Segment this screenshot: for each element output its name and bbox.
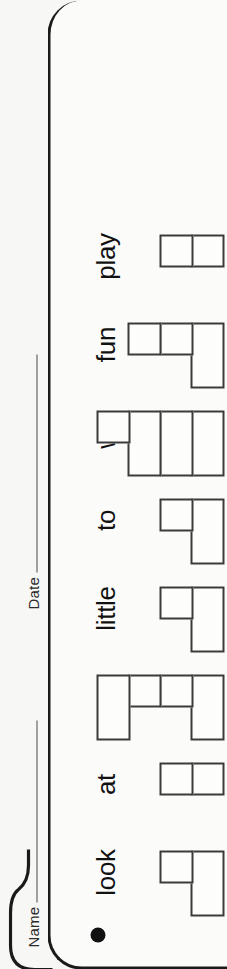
date-field[interactable]: Date	[25, 355, 40, 610]
bar-label-play: play	[92, 212, 118, 300]
bar-cell[interactable]	[96, 410, 130, 443]
bar-stack-me	[122, 652, 227, 740]
bar-cell[interactable]	[190, 850, 224, 916]
bar-cell[interactable]	[159, 498, 193, 531]
bar-chart-plot: lookatmelittletowefunplay	[50, 0, 227, 966]
date-field-rule[interactable]	[36, 355, 37, 573]
bar-label-to: to	[92, 476, 118, 564]
bar-stack-at	[122, 740, 227, 828]
bar-cell[interactable]	[190, 586, 224, 652]
bar-cell[interactable]	[190, 234, 224, 267]
bar-cell[interactable]	[190, 410, 224, 476]
bar-stack-little	[122, 564, 227, 652]
bar-cell[interactable]	[190, 498, 224, 564]
bar-label-fun: fun	[92, 300, 118, 388]
bar-cell[interactable]	[190, 674, 224, 740]
bar-label-at: at	[92, 740, 118, 828]
bar-cell[interactable]	[127, 674, 161, 707]
bar-cell[interactable]	[190, 322, 224, 388]
worksheet-header: Name Date	[0, 0, 46, 969]
bar-label-little: little	[92, 564, 118, 652]
card-notch-decoration	[8, 849, 52, 969]
bar-stack-to	[122, 476, 227, 564]
bar-cell[interactable]	[159, 762, 193, 795]
bar-stack-play	[122, 212, 227, 300]
bar-stack-fun	[122, 300, 227, 388]
bar-cell[interactable]	[159, 234, 193, 267]
bar-cell[interactable]	[159, 586, 193, 619]
bar-cell[interactable]	[127, 410, 161, 476]
bar-cell[interactable]	[96, 674, 130, 740]
worksheet-page: Name Date lookatmelittletowefunplay	[0, 0, 227, 969]
bar-cell[interactable]	[159, 410, 193, 476]
graph-card: lookatmelittletowefunplay	[47, 0, 227, 969]
bar-stack-we	[122, 388, 227, 476]
bar-label-look: look	[92, 828, 118, 916]
bar-cell[interactable]	[159, 674, 193, 707]
bar-stack-look	[122, 828, 227, 916]
bar-cell[interactable]	[190, 762, 224, 795]
bar-cell[interactable]	[159, 322, 193, 355]
bar-cell[interactable]	[127, 322, 161, 355]
bar-cell[interactable]	[159, 850, 193, 883]
date-field-label: Date	[25, 577, 40, 610]
